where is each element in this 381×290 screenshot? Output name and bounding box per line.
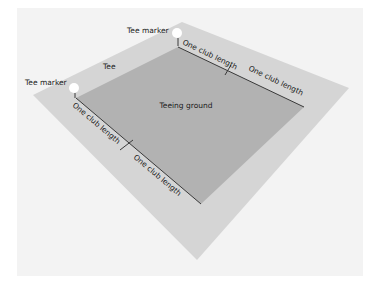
teeing-ground-label: Teeing ground xyxy=(158,101,212,110)
tee-marker-left-label: Tee marker xyxy=(24,78,68,87)
top-tee-marker-icon xyxy=(172,28,182,38)
teeing-ground-diagram: Tee marker Tee marker Tee Teeing ground … xyxy=(0,0,381,290)
left-tee-marker-icon xyxy=(69,83,79,93)
tee-label: Tee xyxy=(102,62,116,71)
tee-marker-top-label: Tee marker xyxy=(126,26,170,35)
